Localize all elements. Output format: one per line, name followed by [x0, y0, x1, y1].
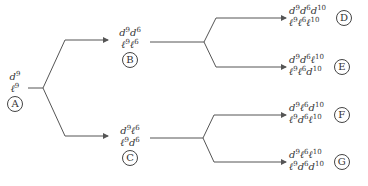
- node-b: d9d6ℓ9ℓ6B: [110, 27, 150, 68]
- genotype-lines: d9d6ℓ10ℓ9ℓ6d10: [289, 54, 324, 78]
- node-label-circle: A: [7, 96, 23, 112]
- node-d: d9d6d10ℓ9ℓ6ℓ10D: [289, 5, 352, 29]
- genotype-line: ℓ9d6: [110, 137, 150, 149]
- edge-c-g: [203, 138, 286, 162]
- node-f: d9ℓ6d10ℓ9d6ℓ10F: [289, 102, 350, 126]
- genotype-lines: d9ℓ6d10ℓ9d6ℓ10: [289, 102, 324, 126]
- node-c: d9ℓ6ℓ9d6C: [110, 125, 150, 166]
- edge-a-b: [28, 40, 108, 88]
- node-e: d9d6ℓ10ℓ9ℓ6d10E: [289, 54, 350, 78]
- node-a: d9ℓ9A: [4, 71, 26, 112]
- edge-a-c: [43, 88, 108, 136]
- edge-c-f: [150, 115, 286, 138]
- node-label-circle: F: [334, 107, 350, 123]
- edge-b-e: [204, 42, 286, 67]
- node-label-circle: D: [336, 10, 352, 26]
- edge-b-d: [150, 18, 286, 42]
- genotype-lines: d9ℓ6ℓ10ℓ9d6d10: [289, 149, 324, 173]
- genotype-lines: d9d6d10ℓ9ℓ6ℓ10: [289, 5, 326, 29]
- genotype-line: ℓ9d6ℓ10: [289, 114, 324, 126]
- node-label-circle: G: [334, 154, 350, 170]
- node-g: d9ℓ6ℓ10ℓ9d6d10G: [289, 149, 350, 173]
- node-label-circle: B: [122, 52, 138, 68]
- genotype-line: ℓ9ℓ6ℓ10: [289, 17, 326, 29]
- genotype-line: ℓ9ℓ6d10: [289, 66, 324, 78]
- genotype-line: ℓ9ℓ6: [110, 39, 150, 51]
- genotype-line: d9d6: [110, 27, 150, 39]
- genotype-line: ℓ9: [4, 83, 26, 95]
- node-label-circle: C: [122, 150, 138, 166]
- node-label-circle: E: [334, 59, 350, 75]
- genotype-line: ℓ9d6d10: [289, 161, 324, 173]
- genotype-line: d9ℓ6: [110, 125, 150, 137]
